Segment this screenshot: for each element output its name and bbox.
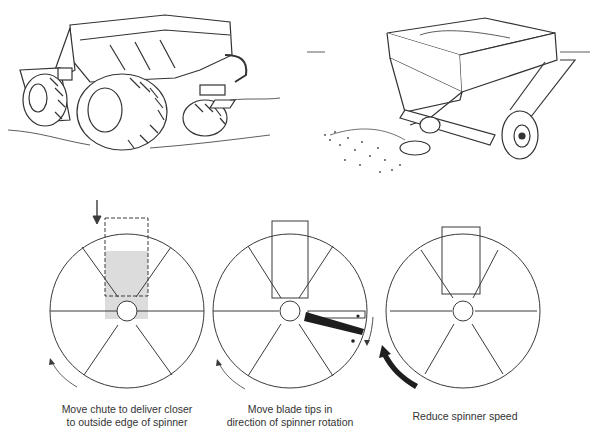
thick-rotation-arrow-icon <box>379 345 418 389</box>
pull-type-spreader-illustration <box>307 18 590 173</box>
diagram-canvas <box>0 0 611 438</box>
caption-panel-1: Move chute to deliver closer to outside … <box>52 403 202 429</box>
caption-panel-3: Reduce spinner speed <box>390 410 540 423</box>
rotation-arrow-icon <box>219 363 245 389</box>
spinner-diagram-blade-adjust <box>213 221 373 389</box>
self-propelled-spreader-illustration <box>8 15 280 150</box>
spinner-diagram-speed-adjust <box>379 227 540 389</box>
caption-line: Reduce spinner speed <box>390 410 540 423</box>
caption-line: direction of spinner rotation <box>195 416 385 429</box>
caption-line: Move blade tips in <box>195 403 385 416</box>
spinner-diagram-chute-adjust <box>49 200 204 388</box>
caption-line: to outside edge of spinner <box>52 416 202 429</box>
caption-panel-2: Move blade tips in direction of spinner … <box>195 403 385 429</box>
caption-line: Move chute to deliver closer <box>52 403 202 416</box>
